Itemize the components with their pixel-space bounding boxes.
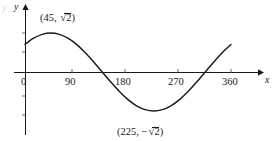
y-axis-label: y — [14, 2, 18, 12]
sqrt-symbol-max: √2 — [59, 12, 71, 24]
maximum-radicand: 2 — [66, 12, 71, 23]
sine-curve-figure: y y x 0 90 180 270 — [0, 0, 276, 141]
minimum-radicand: 2 — [154, 126, 159, 137]
maximum-label-open: (45, — [40, 12, 59, 23]
xtick-label-270: 270 — [168, 77, 184, 88]
x-axis-label: x — [265, 75, 269, 85]
minimum-label-close: ) — [160, 126, 164, 137]
x-axis — [14, 69, 264, 75]
maximum-label-close: ) — [72, 12, 76, 23]
radical-bar — [152, 127, 159, 128]
radical-bar — [64, 13, 71, 14]
sqrt-symbol-min: √2 — [147, 126, 159, 138]
minimum-point-label: (225, −√2) — [117, 126, 163, 138]
minimum-label-open: (225, − — [117, 126, 147, 137]
xtick-label-0: 0 — [21, 77, 26, 88]
maximum-point-label: (45, √2) — [40, 12, 75, 24]
xtick-label-360: 360 — [222, 77, 238, 88]
xtick-label-90: 90 — [65, 77, 76, 88]
y-axis-ticks — [22, 33, 26, 115]
xtick-label-180: 180 — [115, 77, 131, 88]
